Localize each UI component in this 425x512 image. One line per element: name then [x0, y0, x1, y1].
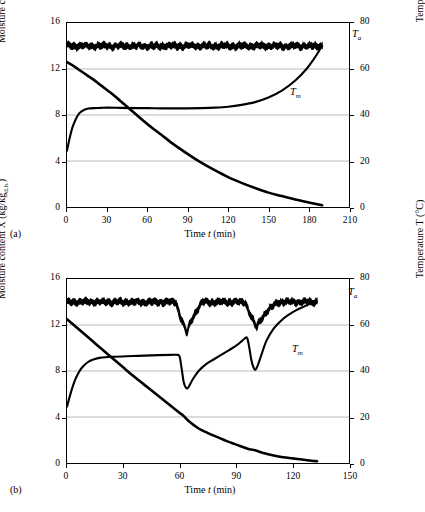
y2-tick-label: 80 [360, 273, 386, 283]
x-tick-mark [350, 464, 351, 468]
series-label-tm-a: Tm [290, 86, 301, 100]
y-axis-label-b: Moisture content X (kg/kgd.b.) [0, 164, 10, 314]
x-tick-label: 120 [213, 216, 243, 226]
x-tick-label: 90 [221, 472, 251, 482]
y-tick-mark [62, 325, 66, 326]
y2-axis-label-b: Temperature T (°C) [414, 164, 425, 314]
y2-tick-label: 20 [360, 157, 386, 167]
y2-tick-label: 0 [360, 459, 386, 469]
x-tick-mark [309, 208, 310, 212]
x-tick-label: 0 [51, 216, 81, 226]
plot-area-b [66, 278, 350, 464]
series-label-ta-a: Ta [352, 28, 361, 42]
x-axis-label-b: Time t (min) [130, 484, 290, 495]
x-tick-mark [293, 464, 294, 468]
series-label-ta-b: Ta [348, 286, 357, 300]
series-label-tm-b: Tm [292, 343, 303, 357]
x-tick-label: 60 [132, 216, 162, 226]
x-tick-mark [236, 464, 237, 468]
y-tick-mark [62, 371, 66, 372]
y-tick-mark [62, 115, 66, 116]
x-tick-mark [66, 208, 67, 212]
x-tick-label: 120 [278, 472, 308, 482]
curves-a [67, 23, 349, 207]
x-tick-label: 210 [335, 216, 365, 226]
x-tick-label: 30 [108, 472, 138, 482]
y2-tick-label: 60 [360, 320, 386, 330]
y2-tick-mark [350, 418, 354, 419]
y2-tick-label: 20 [360, 413, 386, 423]
y2-axis-label-a: Temperature T (°C) [414, 0, 425, 58]
y-tick-label: 12 [34, 64, 60, 74]
panel-caption-a: (a) [10, 228, 21, 239]
y-tick-label: 12 [34, 320, 60, 330]
x-tick-mark [123, 464, 124, 468]
y-tick-mark [62, 418, 66, 419]
y2-tick-mark [350, 162, 354, 163]
x-tick-label: 60 [165, 472, 195, 482]
x-tick-mark [147, 208, 148, 212]
panel-caption-b: (b) [10, 484, 22, 495]
y2-tick-label: 0 [360, 203, 386, 213]
y-tick-mark [62, 162, 66, 163]
x-tick-label: 180 [294, 216, 324, 226]
y-tick-label: 16 [34, 17, 60, 27]
y2-tick-label: 40 [360, 366, 386, 376]
y2-tick-label: 60 [360, 64, 386, 74]
y-tick-label: 4 [34, 413, 60, 423]
y-tick-label: 8 [34, 366, 60, 376]
curves-b [67, 279, 349, 463]
y2-tick-mark [350, 325, 354, 326]
x-tick-mark [228, 208, 229, 212]
y-tick-label: 16 [34, 273, 60, 283]
y2-tick-mark [350, 22, 354, 23]
x-axis-label-a: Time t (min) [130, 228, 290, 239]
y2-tick-mark [350, 69, 354, 70]
plot-area-a [66, 22, 350, 208]
x-tick-mark [66, 464, 67, 468]
x-tick-mark [188, 208, 189, 212]
y2-tick-label: 80 [360, 17, 386, 27]
y-tick-label: 8 [34, 110, 60, 120]
x-tick-label: 0 [51, 472, 81, 482]
y-tick-mark [62, 69, 66, 70]
y-tick-label: 0 [34, 459, 60, 469]
x-tick-mark [107, 208, 108, 212]
y-tick-label: 4 [34, 157, 60, 167]
panel-a: 04812160204060800306090120150180210 Mois… [0, 0, 420, 256]
y2-tick-mark [350, 278, 354, 279]
panel-b: 04812160204060800306090120150 Moisture c… [0, 256, 420, 512]
y-tick-label: 0 [34, 203, 60, 213]
x-tick-label: 150 [335, 472, 365, 482]
x-tick-mark [350, 208, 351, 212]
y2-tick-mark [350, 115, 354, 116]
x-tick-mark [269, 208, 270, 212]
y-axis-label-a: Moisture content X (kg/kgd.b.) [0, 0, 10, 58]
y2-tick-mark [350, 371, 354, 372]
x-tick-label: 90 [173, 216, 203, 226]
x-tick-label: 30 [92, 216, 122, 226]
x-tick-mark [180, 464, 181, 468]
x-tick-label: 150 [254, 216, 284, 226]
y2-tick-label: 40 [360, 110, 386, 120]
